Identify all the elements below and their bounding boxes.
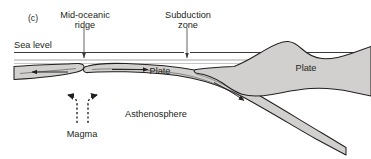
mid-ocean-ridge-label-line2: ridge — [75, 20, 95, 30]
plate-tectonics-diagram: (c) Mid-oceanic ridge Subduction zone Se… — [0, 0, 371, 159]
sea-level-label: Sea level — [14, 40, 52, 50]
panel-label: (c) — [28, 13, 38, 23]
plate-label-oceanic: Plate — [150, 66, 171, 76]
magma-label: Magma — [67, 129, 99, 139]
subduction-zone-label-line2: zone — [178, 20, 198, 30]
mid-ocean-ridge-label-line1: Mid-oceanic — [60, 10, 110, 20]
asthenosphere-label: Asthenosphere — [125, 109, 187, 119]
subduction-zone-label-line1: Subduction — [165, 10, 211, 20]
plate-label-continental: Plate — [296, 63, 317, 73]
